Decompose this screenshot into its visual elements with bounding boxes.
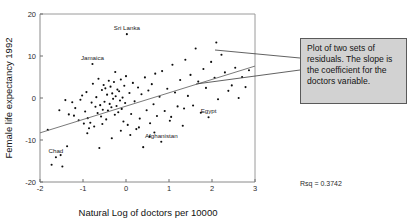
data-point (170, 116, 172, 118)
y-tick-label: 20 (28, 10, 36, 19)
callout-leader-lines (196, 50, 300, 84)
fit-line (40, 66, 255, 133)
regression-line (40, 66, 255, 133)
data-point (106, 94, 108, 96)
data-point (88, 127, 90, 129)
annotation-label: Egypt (201, 107, 217, 114)
data-point (231, 84, 233, 86)
tick-marks (40, 14, 255, 182)
data-point (187, 95, 189, 97)
data-point (111, 92, 113, 94)
data-point (73, 115, 75, 117)
data-point (177, 105, 179, 107)
data-point (160, 141, 162, 143)
leader-line-upper (215, 50, 300, 58)
data-point (149, 122, 151, 124)
data-point (238, 97, 240, 99)
data-point (125, 75, 127, 77)
data-point (105, 118, 107, 120)
data-point (91, 63, 93, 65)
data-point (169, 120, 171, 122)
data-point (101, 123, 103, 125)
data-point (220, 54, 222, 56)
data-point (121, 108, 123, 110)
data-point (195, 47, 197, 49)
data-point (110, 106, 112, 108)
data-points-group (47, 33, 250, 167)
data-point (115, 95, 117, 97)
y-tick-label: -10 (25, 136, 36, 145)
data-point (97, 78, 99, 80)
data-point (103, 84, 105, 86)
data-point (134, 100, 136, 102)
x-tick-label: 2 (210, 184, 214, 193)
y-tick-label: -20 (25, 178, 36, 187)
data-point (68, 113, 70, 115)
data-point (138, 126, 140, 128)
data-point (215, 42, 217, 44)
data-point (217, 98, 219, 100)
data-point (146, 109, 148, 111)
data-point (208, 116, 210, 118)
data-point (91, 102, 93, 104)
data-point (142, 146, 144, 148)
data-point (122, 120, 124, 122)
data-point (109, 86, 111, 88)
data-point (98, 147, 100, 149)
y-tick-label: 0 (32, 94, 36, 103)
data-point (161, 70, 163, 72)
data-point (234, 67, 236, 69)
data-point (127, 124, 129, 126)
data-point (202, 68, 204, 70)
data-point (130, 113, 132, 115)
data-point (74, 107, 76, 109)
x-tick-label: 3 (253, 184, 257, 193)
data-point (116, 89, 118, 91)
data-point (174, 91, 176, 93)
data-point (84, 110, 86, 112)
leader-line-lower (196, 70, 300, 84)
point-annotations: Sri LankaJamaicaEgyptAfghanistanChad (49, 24, 217, 154)
plot-frame (40, 14, 255, 182)
data-point (192, 105, 194, 107)
data-point (184, 59, 186, 61)
data-point (99, 104, 101, 106)
data-point (103, 101, 105, 103)
y-tick-label: 10 (28, 52, 36, 61)
data-point (132, 82, 134, 84)
data-point (85, 91, 87, 93)
data-point (123, 85, 125, 87)
annotation-label: Jamaica (81, 54, 105, 61)
data-point (119, 99, 121, 101)
data-point (122, 97, 124, 99)
data-point (114, 71, 116, 73)
data-point (120, 130, 122, 132)
data-point (197, 81, 199, 83)
data-point (55, 156, 57, 158)
data-point (135, 128, 137, 130)
data-point (94, 106, 96, 108)
data-point (224, 71, 226, 73)
annotation-label: Sri Lanka (114, 24, 141, 31)
data-point (171, 64, 173, 66)
data-point (114, 114, 116, 116)
data-point (118, 90, 120, 92)
data-point (164, 110, 166, 112)
data-point (92, 83, 94, 85)
data-point (144, 76, 146, 78)
y-axis-title: Female life expectancy 1992 (3, 38, 14, 159)
data-point (227, 90, 229, 92)
data-point (71, 101, 73, 103)
data-point (137, 86, 139, 88)
data-point (120, 78, 122, 80)
figure-container: -2-10123-20-1001020 Sri LankaJamaicaEgyp… (0, 0, 411, 221)
data-point (112, 98, 114, 100)
data-point (182, 125, 184, 127)
data-point (205, 87, 207, 89)
data-point (58, 109, 60, 111)
data-point (51, 164, 53, 166)
data-point (113, 81, 115, 83)
data-point (108, 80, 110, 82)
data-point (151, 83, 153, 85)
data-point (139, 118, 141, 120)
